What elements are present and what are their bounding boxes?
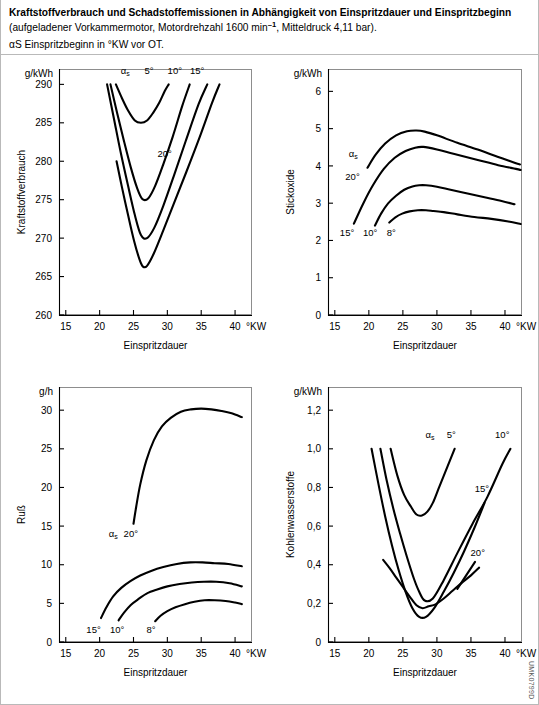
curve-5deg bbox=[116, 84, 169, 122]
curve-label: 20° bbox=[157, 147, 172, 158]
y-tick-label: 0 bbox=[315, 636, 321, 647]
plot-frame bbox=[329, 69, 522, 314]
x-tick-label: 40 bbox=[230, 321, 242, 332]
figure-caption: Kraftstoffverbrauch und Schadstoffemissi… bbox=[1, 0, 538, 55]
caption-subtitle: αS Einspritzbeginn in °KW vor OT. bbox=[9, 38, 530, 52]
y-axis-unit: g/kWh bbox=[25, 68, 53, 79]
caption-title: Kraftstoffverbrauch und Schadstoffemissi… bbox=[9, 6, 530, 35]
charts-grid: 260265270275280285290152025303540°KWg/kW… bbox=[1, 55, 539, 700]
svg-text:αs: αs bbox=[109, 528, 119, 540]
y-tick-label: 0 bbox=[46, 636, 52, 647]
svg-text:αs: αs bbox=[426, 429, 436, 441]
curve-label: 10° bbox=[168, 64, 183, 75]
x-axis-unit: °KW bbox=[246, 321, 267, 332]
x-tick-label: 30 bbox=[162, 321, 174, 332]
x-axis-unit: °KW bbox=[246, 648, 267, 659]
y-tick-label: 0,4 bbox=[307, 559, 321, 570]
curve-10deg bbox=[110, 84, 189, 200]
x-tick-label: 35 bbox=[196, 321, 208, 332]
y-tick-label: 1 bbox=[315, 272, 321, 283]
x-tick-label: 20 bbox=[94, 321, 106, 332]
curve-20deg bbox=[133, 408, 241, 523]
y-axis-unit: g/kWh bbox=[294, 386, 322, 397]
x-tick-label: 40 bbox=[230, 648, 242, 659]
svg-text:αs: αs bbox=[121, 64, 131, 76]
x-tick-label: 35 bbox=[465, 321, 477, 332]
y-tick-label: 10 bbox=[41, 559, 53, 570]
chart-kraftstoffverbrauch: 260265270275280285290152025303540°KWg/kW… bbox=[1, 55, 270, 373]
x-tick-label: 35 bbox=[196, 648, 208, 659]
x-tick-label: 15 bbox=[60, 648, 72, 659]
y-tick-label: 290 bbox=[35, 79, 52, 90]
x-axis-unit: °KW bbox=[516, 648, 537, 659]
x-tick-label: 40 bbox=[499, 648, 511, 659]
alpha-s-label: αs bbox=[121, 64, 131, 76]
x-tick-label: 20 bbox=[94, 648, 106, 659]
alpha-s-label: αs bbox=[109, 528, 119, 540]
caption-title-superscript: –1 bbox=[268, 20, 276, 29]
curve-label: 15° bbox=[86, 623, 101, 634]
y-axis-title: Stickoxide bbox=[285, 168, 296, 214]
plot-frame bbox=[60, 69, 252, 314]
y-tick-label: 0,2 bbox=[307, 598, 321, 609]
y-axis-unit: g/h bbox=[39, 386, 53, 397]
x-tick-label: 25 bbox=[128, 321, 140, 332]
x-tick-label: 25 bbox=[397, 648, 409, 659]
curve-label: 15° bbox=[475, 483, 490, 494]
curve-label: 20° bbox=[124, 528, 139, 539]
y-axis-title: Kohlenwasserstoffe bbox=[285, 470, 296, 558]
y-tick-label: 0,8 bbox=[307, 482, 321, 493]
curve-label: 10° bbox=[363, 227, 378, 238]
y-tick-label: 20 bbox=[41, 482, 53, 493]
x-tick-label: 30 bbox=[431, 321, 443, 332]
curve-20deg bbox=[117, 84, 220, 267]
curve-label: 15° bbox=[190, 64, 205, 75]
chart-stickoxide: 0123456152025303540°KWg/kWhEinspritzdaue… bbox=[270, 55, 539, 373]
chart-russ: 051015202530152025303540°KWg/hEinspritzd… bbox=[1, 373, 270, 700]
y-tick-label: 15 bbox=[41, 520, 53, 531]
curve-5deg bbox=[391, 449, 455, 516]
x-tick-label: 15 bbox=[60, 321, 72, 332]
curve-label: 10° bbox=[110, 623, 125, 634]
curve-label: 8° bbox=[387, 227, 396, 238]
x-tick-label: 30 bbox=[162, 648, 174, 659]
caption-title-normal: (aufgeladener Vorkammermotor, Motordrehz… bbox=[9, 22, 268, 33]
x-axis-title: Einspritzdauer bbox=[124, 340, 189, 351]
y-axis-title: Kraftstoffverbrauch bbox=[16, 150, 27, 234]
y-tick-label: 25 bbox=[41, 443, 53, 454]
y-axis-title: Ruß bbox=[16, 505, 27, 524]
y-tick-label: 1,0 bbox=[307, 443, 321, 454]
figure-page: Kraftstoffverbrauch und Schadstoffemissi… bbox=[0, 0, 539, 705]
curve-label: 20° bbox=[345, 171, 360, 182]
y-tick-label: 6 bbox=[315, 86, 321, 97]
curve-label: 8° bbox=[147, 623, 156, 634]
curve-8deg bbox=[389, 210, 520, 224]
axis-lines bbox=[60, 387, 253, 643]
x-axis-title: Einspritzdauer bbox=[393, 340, 458, 351]
curve-8deg bbox=[155, 600, 242, 621]
y-tick-label: 5 bbox=[315, 123, 321, 134]
axis-lines bbox=[60, 69, 253, 316]
y-tick-label: 3 bbox=[315, 197, 321, 208]
y-tick-label: 2 bbox=[315, 235, 321, 246]
y-tick-label: 4 bbox=[315, 160, 321, 171]
y-tick-label: 30 bbox=[41, 404, 53, 415]
curve-label: 20° bbox=[471, 547, 486, 558]
plot-frame bbox=[60, 387, 252, 641]
curve-label: 15° bbox=[340, 227, 355, 238]
alpha-s-label: αs bbox=[349, 147, 359, 159]
y-tick-label: 260 bbox=[35, 309, 52, 320]
x-tick-label: 20 bbox=[363, 321, 375, 332]
watermark-code: UMK0799D bbox=[528, 661, 535, 700]
curve-label: 10° bbox=[495, 429, 510, 440]
y-axis-unit: g/kWh bbox=[294, 68, 322, 79]
x-tick-label: 25 bbox=[397, 321, 409, 332]
y-tick-label: 275 bbox=[35, 194, 52, 205]
x-tick-label: 25 bbox=[128, 648, 140, 659]
x-axis-title: Einspritzdauer bbox=[393, 667, 458, 678]
alpha-s-label: αs bbox=[426, 429, 436, 441]
curve-label: 5° bbox=[447, 429, 456, 440]
y-tick-label: 1,2 bbox=[307, 404, 321, 415]
x-axis-title: Einspritzdauer bbox=[124, 667, 189, 678]
chart-kohlenwasserstoffe: 00,20,40,60,81,01,2152025303540°KWg/kWhE… bbox=[270, 373, 539, 700]
